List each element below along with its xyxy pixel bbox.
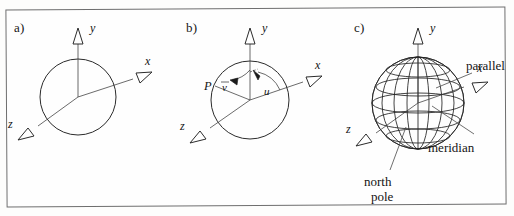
axis-label-y-c: y	[429, 21, 436, 35]
axis-line-z-a	[38, 97, 78, 126]
axis-label-z-b: z	[179, 119, 185, 133]
axis-line-z-b	[210, 100, 250, 128]
leader-meridian	[432, 106, 474, 134]
angle-arrow-u	[253, 70, 260, 80]
panel-c: c) y x z	[340, 0, 514, 216]
axis-line-x-a	[78, 79, 133, 97]
axis-label-y-b: y	[261, 21, 268, 35]
figure-container: a) y x z b)	[0, 0, 514, 216]
angle-label-u: u	[264, 85, 270, 97]
axis-arrow-z-c	[356, 134, 372, 146]
axis-arrow-x-b	[306, 76, 322, 87]
axis-arrow-x-a	[136, 72, 152, 83]
panel-b: b) y x z P	[172, 0, 340, 216]
annotation-north-pole-line1: north	[364, 174, 392, 189]
axis-arrow-z-b	[190, 131, 206, 143]
leader-parallel	[436, 73, 472, 88]
panel-c-drawing: y x z parallel meridian north pole	[340, 0, 514, 216]
annotation-meridian: meridian	[428, 140, 475, 155]
axis-arrow-y-c	[413, 28, 423, 44]
axis-arrow-y-b	[245, 28, 255, 44]
point-label-p: P	[203, 79, 212, 93]
axis-label-x-a: x	[144, 54, 151, 68]
annotation-parallel: parallel	[466, 58, 505, 73]
axis-label-z-a: z	[7, 117, 13, 131]
annotation-north-pole-line2: pole	[371, 189, 394, 204]
angle-arc-v	[232, 70, 250, 80]
leader-north-pole	[390, 127, 406, 170]
axis-line-x-b	[250, 82, 303, 100]
axis-label-y-a: y	[89, 21, 96, 35]
axis-label-x-b: x	[314, 58, 321, 72]
radius-line-p	[215, 86, 250, 100]
axis-arrow-z-a	[18, 128, 34, 140]
panel-a-drawing: y x z	[0, 0, 172, 216]
angle-label-v: v	[222, 81, 227, 93]
axis-label-z-c: z	[345, 122, 351, 136]
axis-arrow-y-a	[73, 28, 83, 44]
panel-b-drawing: y x z P v u	[172, 0, 340, 216]
axis-arrow-x-c	[472, 82, 488, 93]
angle-arrow-v	[230, 78, 238, 85]
panel-a: a) y x z	[0, 0, 172, 216]
